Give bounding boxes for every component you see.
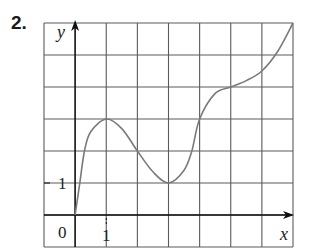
y-axis-label: y xyxy=(55,22,65,42)
y-tick-label-1: 1 xyxy=(58,174,67,193)
origin-label: 0 xyxy=(58,223,67,242)
x-axis-label: x xyxy=(279,224,288,244)
function-graph: y x 0 1 1 xyxy=(0,0,312,251)
grid-lines xyxy=(44,23,293,247)
x-tick-label-1: 1 xyxy=(102,226,111,245)
